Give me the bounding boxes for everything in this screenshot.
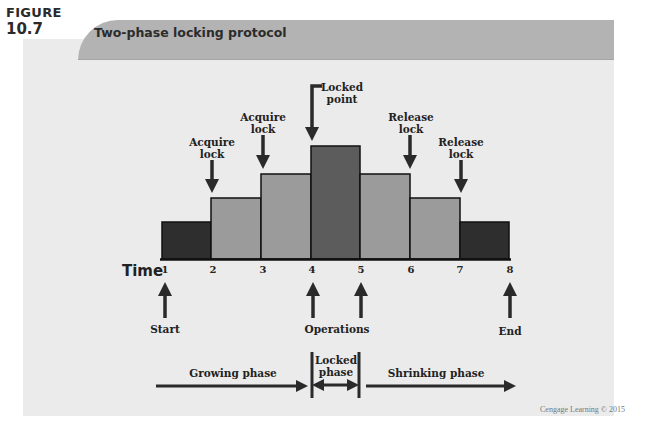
time-axis-label: Time xyxy=(122,262,163,280)
tick-8: 8 xyxy=(507,264,514,275)
locking-diagram: Time 1 2 3 4 5 6 7 8 Acquire lock Acquir… xyxy=(0,0,649,434)
annotation-locked-line1: Locked xyxy=(321,81,364,93)
bar-2-3 xyxy=(211,198,261,259)
tick-6: 6 xyxy=(408,264,415,275)
annotation-acquire-1-line1: Acquire xyxy=(188,136,235,148)
annotation-release-1-line1: Release xyxy=(388,111,434,123)
label-start: Start xyxy=(150,323,180,335)
time-ticks: 1 2 3 4 5 6 7 8 xyxy=(162,264,514,275)
annotation-release-2-line2: lock xyxy=(449,148,474,160)
tick-1: 1 xyxy=(162,264,169,275)
label-operations: Operations xyxy=(305,323,370,335)
tick-2: 2 xyxy=(210,264,217,275)
bar-3-4 xyxy=(261,174,311,259)
bar-5-6 xyxy=(360,174,410,259)
annotation-release-2-line1: Release xyxy=(438,136,484,148)
tick-3: 3 xyxy=(260,264,267,275)
bar-4-5 xyxy=(311,146,360,259)
growing-phase-label: Growing phase xyxy=(189,367,277,379)
locked-phase-label-line2: phase xyxy=(319,366,354,378)
annotation-release-1-line2: lock xyxy=(399,123,424,135)
bar-1-2 xyxy=(162,222,211,259)
tick-7: 7 xyxy=(457,264,464,275)
annotation-acquire-2-line1: Acquire xyxy=(239,111,286,123)
arrow-down-icon xyxy=(312,86,322,134)
bar-7-8 xyxy=(460,222,509,259)
tick-5: 5 xyxy=(358,264,365,275)
annotation-acquire-2-line2: lock xyxy=(251,123,276,135)
copyright-notice: Cengage Learning © 2015 xyxy=(540,405,625,414)
label-end: End xyxy=(499,325,523,337)
tick-4: 4 xyxy=(309,264,316,275)
shrinking-phase-label: Shrinking phase xyxy=(388,367,485,379)
bar-6-7 xyxy=(410,198,460,259)
up-arrows xyxy=(165,289,510,318)
annotation-acquire-1-line2: lock xyxy=(200,148,225,160)
phase-timeline: Growing phase Locked phase Shrinking pha… xyxy=(156,352,510,398)
annotation-locked-line2: point xyxy=(327,93,358,105)
locked-phase-label-line1: Locked xyxy=(315,354,358,366)
